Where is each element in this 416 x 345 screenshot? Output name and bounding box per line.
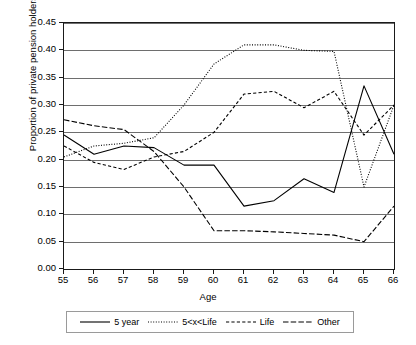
legend-key-solid — [80, 318, 110, 326]
legend-item[interactable]: Life — [226, 317, 275, 327]
x-tick-mark — [123, 270, 124, 274]
x-tick-label: 59 — [171, 274, 195, 285]
legend-label: Life — [260, 317, 275, 327]
legend-item[interactable]: Other — [283, 317, 340, 327]
legend-key-dashed — [226, 318, 256, 326]
series-line — [64, 86, 394, 206]
y-tick-label: 0.35 — [22, 71, 56, 82]
y-tick-label: 0.15 — [22, 180, 56, 191]
x-tick-mark — [303, 270, 304, 274]
legend-key-dashdot — [283, 318, 313, 326]
legend-item[interactable]: 5<x<Life — [148, 317, 217, 327]
x-tick-label: 58 — [141, 274, 165, 285]
x-tick-mark — [333, 270, 334, 274]
legend-key-dotted — [148, 318, 178, 326]
x-tick-mark — [273, 270, 274, 274]
x-tick-mark — [63, 270, 64, 274]
legend-label: 5 year — [114, 317, 139, 327]
x-tick-mark — [393, 270, 394, 274]
x-tick-label: 57 — [111, 274, 135, 285]
y-tick-label: 0.20 — [22, 153, 56, 164]
legend-label: Other — [317, 317, 340, 327]
x-tick-label: 56 — [81, 274, 105, 285]
plot-area — [63, 22, 395, 270]
x-tick-label: 66 — [381, 274, 405, 285]
legend-item[interactable]: 5 year — [80, 317, 139, 327]
x-tick-label: 61 — [231, 274, 255, 285]
y-tick-label: 0.10 — [22, 207, 56, 218]
y-tick-label: 0.25 — [22, 125, 56, 136]
x-tick-label: 62 — [261, 274, 285, 285]
x-tick-mark — [93, 270, 94, 274]
chart-legend: 5 year5<x<LifeLifeOther — [66, 311, 354, 333]
x-axis-title: Age — [0, 291, 416, 302]
x-tick-mark — [183, 270, 184, 274]
data-lines — [64, 23, 394, 269]
chart-root: Proportion of private pension holders 0.… — [0, 0, 416, 345]
y-tick-label: 0.30 — [22, 98, 56, 109]
x-tick-label: 65 — [351, 274, 375, 285]
x-tick-mark — [213, 270, 214, 274]
y-tick-label: 0.05 — [22, 235, 56, 246]
x-tick-label: 63 — [291, 274, 315, 285]
x-tick-mark — [243, 270, 244, 274]
legend-label: 5<x<Life — [182, 317, 217, 327]
series-line — [64, 45, 394, 187]
y-tick-label: 0.40 — [22, 43, 56, 54]
x-tick-label: 55 — [51, 274, 75, 285]
x-tick-mark — [363, 270, 364, 274]
series-line — [64, 120, 394, 242]
y-tick-label: 0.00 — [22, 262, 56, 273]
x-tick-label: 64 — [321, 274, 345, 285]
x-tick-label: 60 — [201, 274, 225, 285]
x-tick-mark — [153, 270, 154, 274]
series-container — [64, 23, 394, 269]
y-tick-label: 0.45 — [22, 16, 56, 27]
series-line — [64, 91, 394, 169]
